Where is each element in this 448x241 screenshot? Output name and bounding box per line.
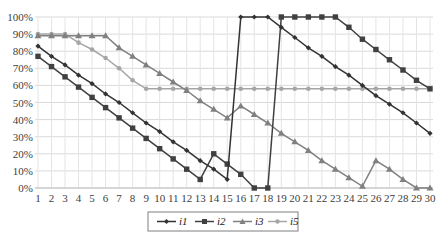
circle-marker-icon [238, 87, 243, 92]
series-i5 [36, 32, 433, 91]
x-tick-label: 4 [76, 192, 82, 204]
series-i1 [35, 14, 432, 182]
square-marker-icon [360, 37, 365, 42]
x-tick-label: 11 [168, 192, 179, 204]
circle-marker-icon [252, 87, 257, 92]
y-tick-label: 50% [13, 97, 33, 109]
square-marker-icon [238, 172, 243, 177]
x-axis-ticks: 1234567891011121314151617181920212223242… [35, 192, 436, 204]
square-marker-icon [319, 14, 324, 19]
y-tick-label: 0% [18, 182, 33, 194]
circle-marker-icon [401, 87, 406, 92]
series-i3 [35, 32, 434, 190]
circle-marker-icon [414, 87, 419, 92]
triangle-marker-icon [143, 61, 150, 67]
triangle-marker-icon [305, 147, 312, 153]
y-tick-label: 90% [13, 28, 33, 40]
square-marker-icon [62, 74, 67, 79]
square-marker-icon [387, 57, 392, 62]
x-tick-label: 8 [130, 192, 136, 204]
x-tick-label: 12 [181, 192, 192, 204]
square-marker-icon [427, 86, 432, 91]
square-marker-icon [198, 177, 203, 182]
triangle-marker-icon [372, 157, 379, 163]
circle-marker-icon [333, 87, 338, 92]
square-marker-icon [414, 78, 419, 83]
x-tick-label: 6 [103, 192, 109, 204]
circle-marker-icon [90, 47, 95, 52]
circle-marker-icon [144, 87, 149, 92]
circle-marker-icon [279, 87, 284, 92]
triangle-marker-icon [183, 87, 190, 93]
legend: i1 i2 i3 i5 [148, 212, 299, 231]
circle-marker-icon [130, 78, 135, 83]
x-tick-label: 9 [143, 192, 149, 204]
y-tick-label: 100% [7, 11, 33, 23]
legend-label-i2: i2 [217, 215, 226, 227]
square-marker-icon [103, 105, 108, 110]
square-marker-icon [170, 156, 175, 161]
diamond-marker-icon [238, 14, 243, 19]
x-tick-label: 28 [397, 192, 409, 204]
x-tick-label: 5 [89, 192, 95, 204]
x-tick-label: 7 [116, 192, 122, 204]
x-tick-label: 15 [222, 192, 234, 204]
x-tick-label: 16 [235, 192, 247, 204]
square-marker-icon [400, 67, 405, 72]
square-marker-icon [346, 25, 351, 30]
legend-label-i3: i3 [255, 215, 264, 227]
x-tick-label: 21 [303, 192, 314, 204]
circle-marker-icon [211, 87, 216, 92]
x-tick-label: 22 [316, 192, 327, 204]
circle-marker-icon [103, 56, 108, 61]
circle-marker-icon [374, 87, 379, 92]
y-tick-label: 20% [13, 148, 33, 160]
x-tick-label: 20 [289, 192, 301, 204]
y-axis-ticks: 0%10%20%30%40%50%60%70%80%90%100% [7, 11, 33, 194]
square-marker-icon [202, 219, 207, 224]
square-marker-icon [333, 14, 338, 19]
x-tick-label: 26 [370, 192, 382, 204]
triangle-marker-icon [251, 111, 258, 117]
triangle-marker-icon [386, 166, 393, 172]
square-marker-icon [157, 146, 162, 151]
legend-label-i1: i1 [179, 215, 188, 227]
circle-marker-icon [117, 66, 122, 71]
triangle-marker-icon [291, 138, 298, 144]
square-marker-icon [292, 14, 297, 19]
square-marker-icon [279, 14, 284, 19]
y-tick-label: 30% [13, 131, 33, 143]
circle-marker-icon [347, 87, 352, 92]
triangle-marker-icon [345, 174, 352, 180]
triangle-marker-icon [264, 120, 271, 126]
square-marker-icon [89, 95, 94, 100]
circle-marker-icon [171, 87, 176, 92]
circle-marker-icon [265, 87, 270, 92]
x-tick-label: 10 [154, 192, 166, 204]
x-tick-label: 25 [357, 192, 369, 204]
square-marker-icon [49, 64, 54, 69]
triangle-marker-icon [237, 102, 244, 108]
triangle-marker-icon [129, 53, 136, 59]
circle-marker-icon [320, 87, 325, 92]
x-tick-label: 24 [343, 192, 355, 204]
square-marker-icon [184, 166, 189, 171]
diamond-marker-icon [252, 14, 257, 19]
square-marker-icon [76, 84, 81, 89]
x-tick-label: 3 [62, 192, 68, 204]
square-marker-icon [35, 54, 40, 59]
circle-marker-icon [198, 87, 203, 92]
triangle-marker-icon [210, 106, 217, 112]
x-tick-label: 1 [35, 192, 41, 204]
circle-marker-icon [275, 219, 279, 223]
x-tick-label: 19 [276, 192, 288, 204]
legend-label-i5: i5 [290, 215, 299, 227]
square-marker-icon [373, 47, 378, 52]
square-marker-icon [130, 125, 135, 130]
x-tick-label: 27 [384, 192, 396, 204]
x-tick-label: 29 [411, 192, 423, 204]
triangle-marker-icon [156, 70, 163, 76]
square-marker-icon [211, 151, 216, 156]
circle-marker-icon [157, 87, 162, 92]
triangle-marker-icon [332, 166, 339, 172]
